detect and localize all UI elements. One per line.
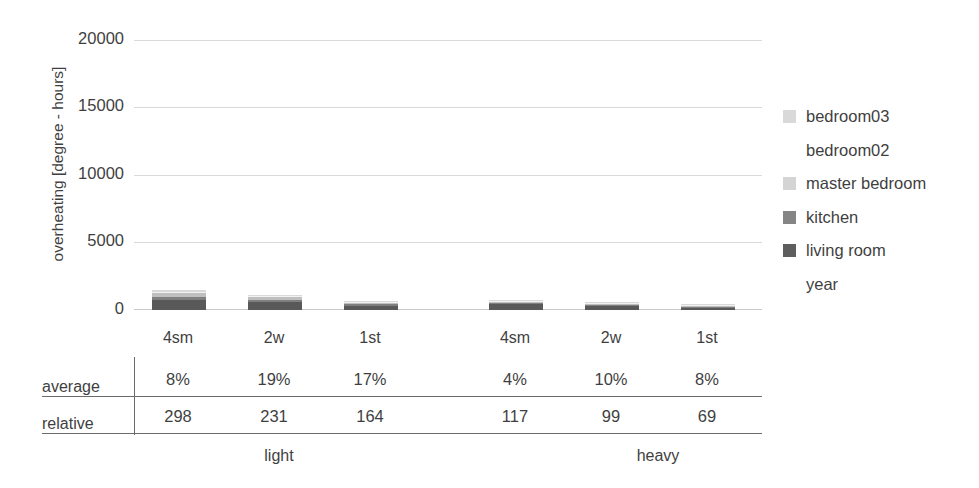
table-cell-relative-4: 99 [576,407,646,426]
table-cell-relative-1: 231 [239,407,309,426]
table-line-average-bottom [134,396,762,397]
legend-item-kitchen[interactable]: kitchen [783,201,979,235]
legend-swatch-living-room-icon [783,244,796,257]
legend-swatch-kitchen-icon [783,211,796,224]
table-row-label-average-underline [42,396,134,397]
legend-swatch-bedroom02-icon [783,144,796,157]
legend-label-year: year [806,275,838,294]
table-row-label-relative-underline [42,433,134,434]
table-line-relative-bottom [134,433,762,434]
legend-label-living-room: living room [806,241,886,260]
table-cell-average-2: 17% [335,370,405,389]
legend-item-bedroom03[interactable]: bedroom03 [783,100,979,134]
group-label-heavy: heavy [578,447,738,465]
legend-swatch-bedroom03-icon [783,110,796,123]
legend-label-master-bedroom: master bedroom [806,174,926,193]
table-cell-average-1: 19% [239,370,309,389]
legend-swatch-master-bedroom-icon [783,177,796,190]
legend-item-master-bedroom[interactable]: master bedroom [783,167,979,201]
table-cell-average-4: 10% [576,370,646,389]
table-cell-relative-0: 298 [143,407,213,426]
table-cell-relative-2: 164 [335,407,405,426]
table-row-label-relative: relative [42,415,94,433]
legend-swatch-year-icon [783,278,796,291]
table-cell-relative-3: 117 [480,407,550,426]
chart-legend: bedroom03bedroom02master bedroomkitchenl… [783,100,979,301]
legend-label-bedroom03: bedroom03 [806,107,889,126]
table-cell-relative-5: 69 [672,407,742,426]
legend-label-kitchen: kitchen [806,208,858,227]
legend-item-living-room[interactable]: living room [783,234,979,268]
group-label-light: light [199,447,359,465]
chart-root: overheating [degree - hours] 20000 15000… [0,0,979,488]
table-cell-average-3: 4% [480,370,550,389]
legend-item-bedroom02[interactable]: bedroom02 [783,134,979,168]
table-row-label-average: average [42,378,100,396]
table-cell-average-5: 8% [672,370,742,389]
table-cell-average-0: 8% [143,370,213,389]
legend-item-year[interactable]: year [783,268,979,302]
legend-label-bedroom02: bedroom02 [806,141,889,160]
